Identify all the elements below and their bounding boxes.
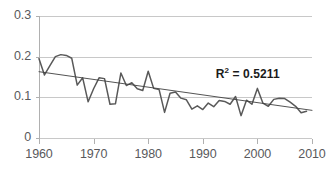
chart-container: 00.10.20.3 196019701980199020002010 R2 =… <box>0 0 328 173</box>
data-series-path <box>39 55 307 116</box>
y-tick-label: 0.2 <box>0 49 31 63</box>
x-tick-label: 1960 <box>18 147 60 161</box>
y-tick-label: 0.3 <box>0 8 31 22</box>
x-tick-label: 2000 <box>236 147 278 161</box>
x-tick-label: 1990 <box>182 147 224 161</box>
y-tick-label: 0.1 <box>0 89 31 103</box>
x-tick-label: 1970 <box>73 147 115 161</box>
r-squared-symbol: R <box>216 67 225 81</box>
x-tick-label: 2010 <box>291 147 328 161</box>
x-tick-label: 1980 <box>127 147 169 161</box>
r-squared-annotation: R2 = 0.5211 <box>216 67 280 81</box>
r-squared-value: = 0.5211 <box>229 67 280 81</box>
series-paths <box>39 55 312 116</box>
y-tick-label: 0 <box>0 130 31 144</box>
